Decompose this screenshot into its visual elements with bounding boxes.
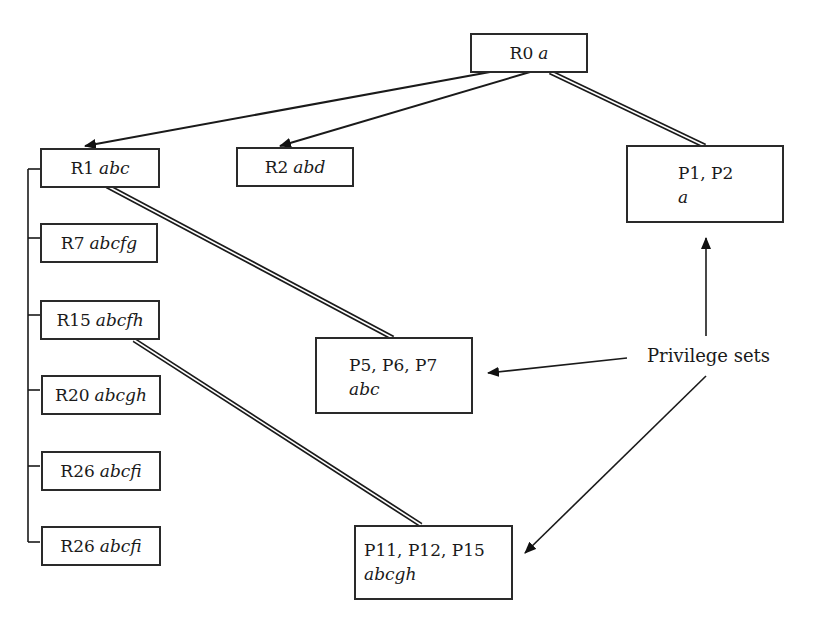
role-privileges: abc — [99, 160, 130, 177]
role-privileges: abd — [293, 159, 325, 176]
role-node-r20: R20 abcgh — [41, 375, 161, 415]
role-privileges: abcfh — [96, 312, 144, 329]
privilege-set-p11-p12-p15: P11, P12, P15 abcgh — [354, 525, 513, 600]
role-privileges: abcfi — [100, 463, 142, 480]
role-label: R26 — [60, 463, 94, 480]
role-label: R15 — [56, 312, 90, 329]
edge-r0-r1-arrow — [85, 72, 490, 146]
role-privileges: abcfg — [89, 235, 137, 252]
role-label: R7 — [61, 235, 85, 252]
annotation-arrow-ps3 — [525, 376, 706, 553]
role-node-r26-duplicate: R26 abcfi — [41, 526, 161, 566]
role-node-r1: R1 abc — [40, 148, 160, 188]
role-node-r15: R15 abcfh — [40, 300, 160, 340]
privilege-set-privileges: abc — [349, 381, 380, 398]
role-node-r0: R0 a — [470, 33, 588, 73]
role-privileges: abcgh — [95, 387, 147, 404]
role-node-r2: R2 abd — [236, 147, 354, 187]
role-label: R20 — [55, 387, 89, 404]
role-privileges: a — [538, 45, 548, 62]
role-node-r7: R7 abcfg — [40, 223, 158, 263]
role-label: R0 — [510, 45, 534, 62]
privilege-set-members: P5, P6, P7 — [349, 357, 437, 374]
annotation-arrow-ps2 — [488, 358, 627, 373]
privilege-set-members: P1, P2 — [678, 165, 733, 182]
privilege-set-p5-p6-p7: P5, P6, P7 abc — [315, 337, 473, 414]
role-label: R2 — [265, 159, 289, 176]
privilege-set-privileges: a — [678, 189, 688, 206]
privilege-set-members: P11, P12, P15 — [364, 542, 485, 559]
edge-r0-r2-arrow — [280, 72, 530, 146]
role-privileges: abcfi — [100, 538, 142, 555]
role-label: R26 — [60, 538, 94, 555]
role-node-r26: R26 abcfi — [41, 451, 161, 491]
role-label: R1 — [70, 160, 94, 177]
privilege-set-p1-p2: P1, P2 a — [626, 145, 784, 223]
privilege-sets-annotation: Privilege sets — [647, 345, 770, 366]
privilege-set-privileges: abcgh — [364, 566, 416, 583]
role-tree-bracket — [28, 169, 40, 542]
